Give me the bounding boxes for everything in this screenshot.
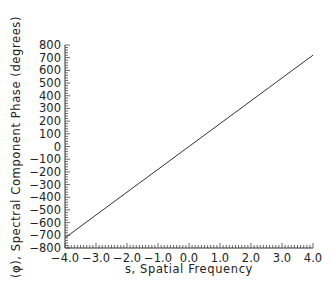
data-line xyxy=(65,55,313,238)
y-axis-label: (φ), Spectral Component Phase (degrees) xyxy=(9,16,23,278)
phase-vs-frequency-chart: 8007006005004003002001000−100−200−300−40… xyxy=(0,0,331,286)
x-tick-label: 3.0 xyxy=(273,251,291,265)
x-axis-label: s, Spatial Frequency xyxy=(125,262,253,276)
plot-area xyxy=(65,55,313,238)
y-axis-ticks: 8007006005004003002001000−100−200−300−40… xyxy=(29,38,70,255)
x-tick-label: −4.0 xyxy=(51,251,79,265)
x-tick-label: −3.0 xyxy=(82,251,110,265)
x-tick-label: 4.0 xyxy=(304,251,322,265)
